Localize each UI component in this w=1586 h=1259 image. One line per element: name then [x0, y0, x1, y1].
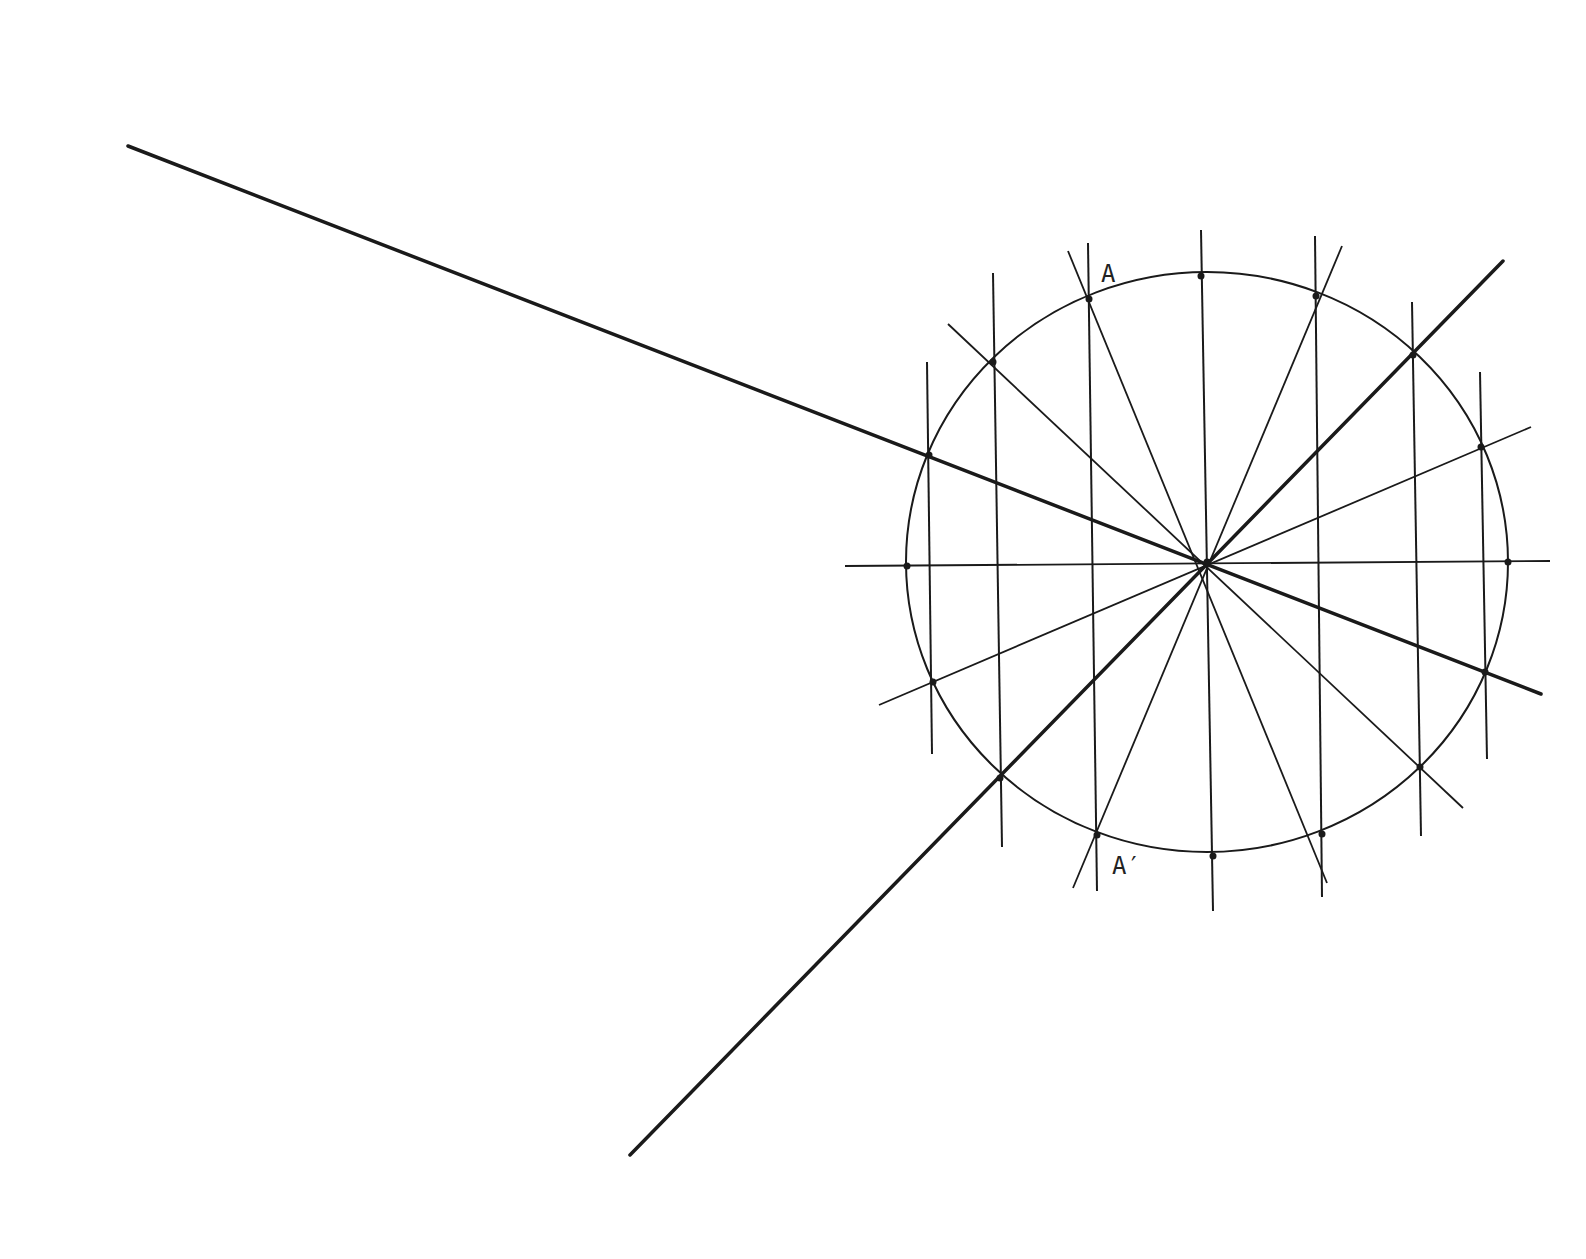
- division-point: [1204, 559, 1211, 566]
- radial-112: [1068, 251, 1327, 883]
- long-line-lower-left: [630, 261, 1503, 1155]
- division-point: [1086, 296, 1093, 303]
- vertical-1: [927, 362, 932, 754]
- vertical-3: [1088, 243, 1097, 891]
- vertical-6: [1480, 372, 1487, 759]
- division-point: [930, 679, 937, 686]
- point-labels: A A′: [1101, 260, 1141, 880]
- division-point: [997, 775, 1004, 782]
- division-point: [1482, 669, 1489, 676]
- division-point: [1198, 273, 1205, 280]
- division-point: [1478, 444, 1485, 451]
- vertical-4: [1315, 236, 1322, 897]
- geometric-construction-diagram: A A′: [0, 0, 1586, 1259]
- division-point: [926, 452, 933, 459]
- label-point-a-prime: A′: [1112, 852, 1141, 880]
- division-point: [904, 563, 911, 570]
- division-point: [1210, 853, 1217, 860]
- division-point: [1505, 559, 1512, 566]
- division-point: [1313, 293, 1320, 300]
- division-point: [1319, 831, 1326, 838]
- division-point: [1410, 352, 1417, 359]
- division-point: [1417, 764, 1424, 771]
- division-point: [1094, 832, 1101, 839]
- division-point: [990, 359, 997, 366]
- long-line-upper-left: [128, 146, 1541, 694]
- label-point-a: A: [1101, 260, 1116, 288]
- vertical-5: [1412, 302, 1421, 836]
- radial-division-lines: [845, 246, 1550, 888]
- radial-68: [1073, 246, 1342, 888]
